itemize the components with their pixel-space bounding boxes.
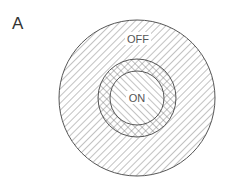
surround-label: OFF xyxy=(127,33,149,45)
center-label: ON xyxy=(129,92,146,104)
receptive-field-diagram: OFF ON xyxy=(0,0,227,182)
